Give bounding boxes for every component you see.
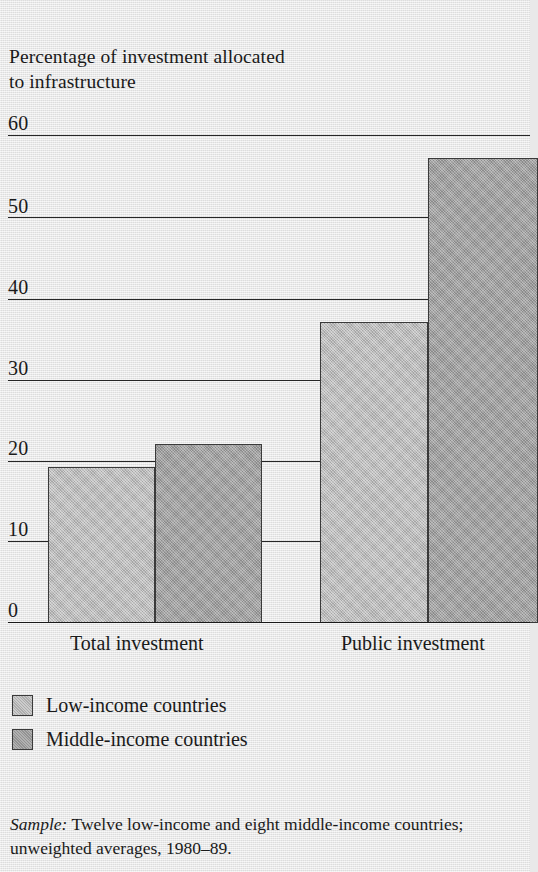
legend-swatch-middle-income — [12, 729, 33, 750]
source-note-label: Sample: — [10, 814, 67, 834]
x-axis-baseline — [8, 622, 530, 623]
y-axis-tick-20: 20 — [8, 438, 28, 458]
legend-item-low-income: Low-income countries — [12, 688, 248, 722]
bar-public-investment-low-income — [320, 322, 428, 623]
legend-label-low-income: Low-income countries — [46, 694, 227, 716]
y-axis-tick-60: 60 — [8, 113, 28, 133]
y-axis-tick-0: 0 — [8, 600, 18, 620]
source-note-text: Twelve low-income and eight middle-incom… — [10, 814, 463, 858]
y-axis-tick-50: 50 — [8, 196, 28, 216]
legend-item-middle-income: Middle-income countries — [12, 722, 248, 756]
gridline-60 — [8, 135, 530, 136]
x-axis-label-public-investment: Public investment — [341, 632, 485, 654]
bar-public-investment-middle-income — [428, 158, 538, 623]
bar-total-investment-low-income — [48, 467, 155, 623]
legend-swatch-low-income — [12, 695, 33, 716]
y-axis-tick-30: 30 — [8, 358, 28, 378]
bar-total-investment-middle-income — [155, 444, 262, 623]
chart-source-note: Sample: Twelve low-income and eight midd… — [10, 812, 522, 860]
legend-label-middle-income: Middle-income countries — [46, 728, 248, 750]
y-axis-tick-40: 40 — [8, 277, 28, 297]
chart-legend: Low-income countries Middle-income count… — [12, 688, 248, 756]
y-axis-tick-10: 10 — [8, 519, 28, 539]
x-axis-label-total-investment: Total investment — [70, 632, 204, 654]
